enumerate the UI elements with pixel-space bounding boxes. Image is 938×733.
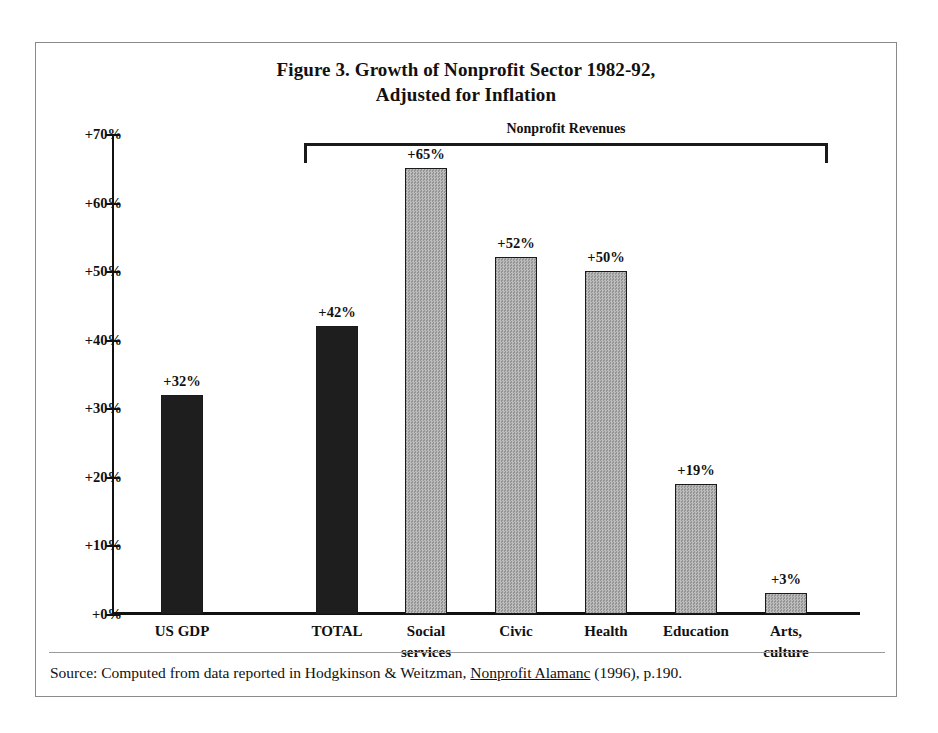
bar-value-label-health: +50% xyxy=(587,249,624,266)
bars-layer: +32%+42%+65%+52%+50%+19%+3% xyxy=(36,43,898,614)
bar-health[interactable]: +50% xyxy=(585,271,627,614)
bar-total[interactable]: +42% xyxy=(316,326,358,614)
bar-social-services[interactable]: +65% xyxy=(405,168,447,614)
bar-education[interactable]: +19% xyxy=(675,484,717,614)
category-label-line-1: Arts, xyxy=(726,621,846,642)
source-note-title: Nonprofit Alamanc xyxy=(470,664,590,681)
bar-fill xyxy=(765,593,807,614)
category-label-us-gdp: US GDP xyxy=(122,621,242,642)
bar-fill xyxy=(316,326,358,614)
bar-fill xyxy=(675,484,717,614)
source-note-suffix: (1996), p.190. xyxy=(590,664,682,681)
bar-fill xyxy=(161,395,203,614)
source-divider xyxy=(49,652,885,653)
bar-civic[interactable]: +52% xyxy=(495,257,537,614)
bar-fill xyxy=(585,271,627,614)
source-note: Source: Computed from data reported in H… xyxy=(50,662,870,684)
bar-us-gdp[interactable]: +32% xyxy=(161,395,203,614)
bar-value-label-us-gdp: +32% xyxy=(163,373,200,390)
bar-value-label-arts-culture: +3% xyxy=(771,571,801,588)
bar-value-label-social-services: +65% xyxy=(407,146,444,163)
bar-value-label-total: +42% xyxy=(318,304,355,321)
bar-value-label-civic: +52% xyxy=(497,235,534,252)
category-label-arts-culture: Arts,culture xyxy=(726,621,846,663)
bar-arts-culture[interactable]: +3% xyxy=(765,593,807,614)
plot-area: Nonprofit Revenues +70%+60%+50%+40%+30%+… xyxy=(36,43,898,698)
category-label-line-1: US GDP xyxy=(122,621,242,642)
bar-fill xyxy=(405,168,447,614)
bar-fill xyxy=(495,257,537,614)
figure-frame: Figure 3. Growth of Nonprofit Sector 198… xyxy=(35,42,897,697)
bar-value-label-education: +19% xyxy=(677,462,714,479)
source-note-prefix: Source: Computed from data reported in H… xyxy=(50,664,470,681)
